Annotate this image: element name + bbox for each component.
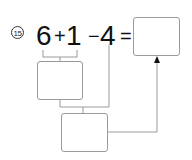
step1-box[interactable] [37,61,83,100]
step2-box[interactable] [61,113,108,152]
answer-box[interactable] [133,17,180,56]
